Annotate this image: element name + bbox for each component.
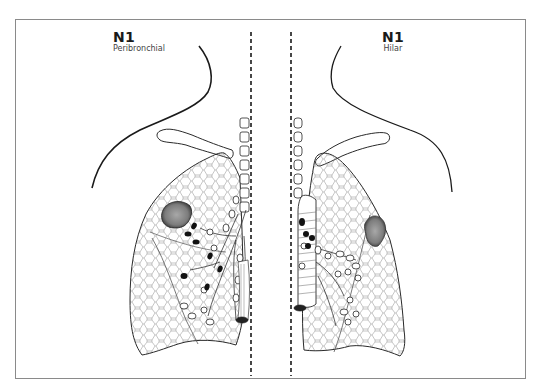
bronchus-opening-right [294, 305, 306, 311]
bronchus-opening-left [236, 317, 248, 323]
subtitle-left: Peribronchial [113, 44, 165, 54]
label-left-panel: N1 Peribronchial [113, 30, 165, 54]
lung-illustration [0, 0, 540, 391]
stage-label-left: N1 [113, 30, 165, 44]
lung-left [130, 153, 244, 355]
lung-right [303, 153, 405, 356]
spine-left [240, 118, 249, 212]
label-right-panel: N1 Hilar [382, 30, 404, 54]
stage-label-right: N1 [382, 30, 404, 44]
trachea-right [294, 195, 316, 311]
spine-right [294, 118, 302, 198]
subtitle-right: Hilar [382, 44, 404, 54]
